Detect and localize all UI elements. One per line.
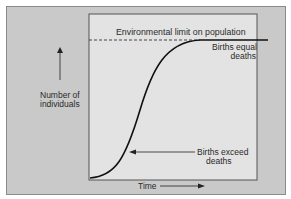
x-arrowhead-icon bbox=[198, 184, 205, 189]
limit-label: Environmental limit on population bbox=[116, 28, 246, 37]
plateau-label-2: deaths bbox=[212, 52, 256, 61]
growth-label-2: deaths bbox=[206, 157, 232, 166]
y-label-2: individuals bbox=[40, 100, 80, 109]
y-arrowhead-icon bbox=[57, 47, 63, 53]
x-label: Time bbox=[138, 182, 157, 191]
